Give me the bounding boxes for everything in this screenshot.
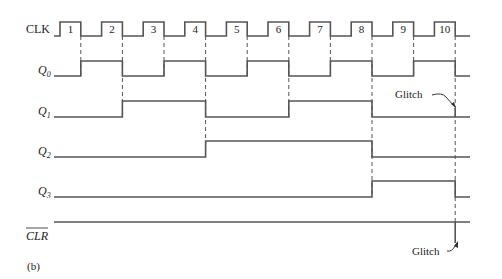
glitch-arrow-q1 xyxy=(432,94,455,107)
clock-pulse-number: 8 xyxy=(359,23,365,35)
glitch-label-q1: Glitch xyxy=(395,88,423,100)
clr-label: CLR xyxy=(26,229,49,243)
signal-labels: CLKQ0Q1Q2Q3CLR xyxy=(26,22,51,243)
q3-waveform xyxy=(54,181,470,197)
clock-pulse-number: 2 xyxy=(109,23,115,35)
q0-label: Q0 xyxy=(38,63,51,79)
annotations: GlitchGlitch xyxy=(395,88,458,257)
q1-waveform xyxy=(54,101,470,117)
glitch-label-clr: Glitch xyxy=(412,245,440,257)
clock-pulse-number: 10 xyxy=(439,23,451,35)
clock-pulse-number: 5 xyxy=(234,23,240,35)
clock-pulse-number: 3 xyxy=(151,23,157,35)
q0-waveform xyxy=(54,61,470,76)
timing-diagram: CLKQ0Q1Q2Q3CLR 12345678910 GlitchGlitch … xyxy=(0,0,502,279)
q1-label: Q1 xyxy=(38,104,51,120)
waveforms xyxy=(54,22,470,243)
clock-pulse-number: 9 xyxy=(400,23,406,35)
clock-pulse-number: 1 xyxy=(68,23,74,35)
q3-label: Q3 xyxy=(38,184,51,200)
clk-label: CLK xyxy=(26,22,50,36)
clock-pulse-number: 6 xyxy=(276,23,282,35)
clock-pulse-number: 4 xyxy=(192,23,198,35)
figure-caption: (b) xyxy=(27,260,40,273)
clock-edge-guides xyxy=(81,36,455,222)
q2-waveform xyxy=(54,141,470,157)
q2-label: Q2 xyxy=(38,144,51,160)
clk-waveform xyxy=(54,22,470,36)
clock-pulse-number: 7 xyxy=(317,23,323,35)
